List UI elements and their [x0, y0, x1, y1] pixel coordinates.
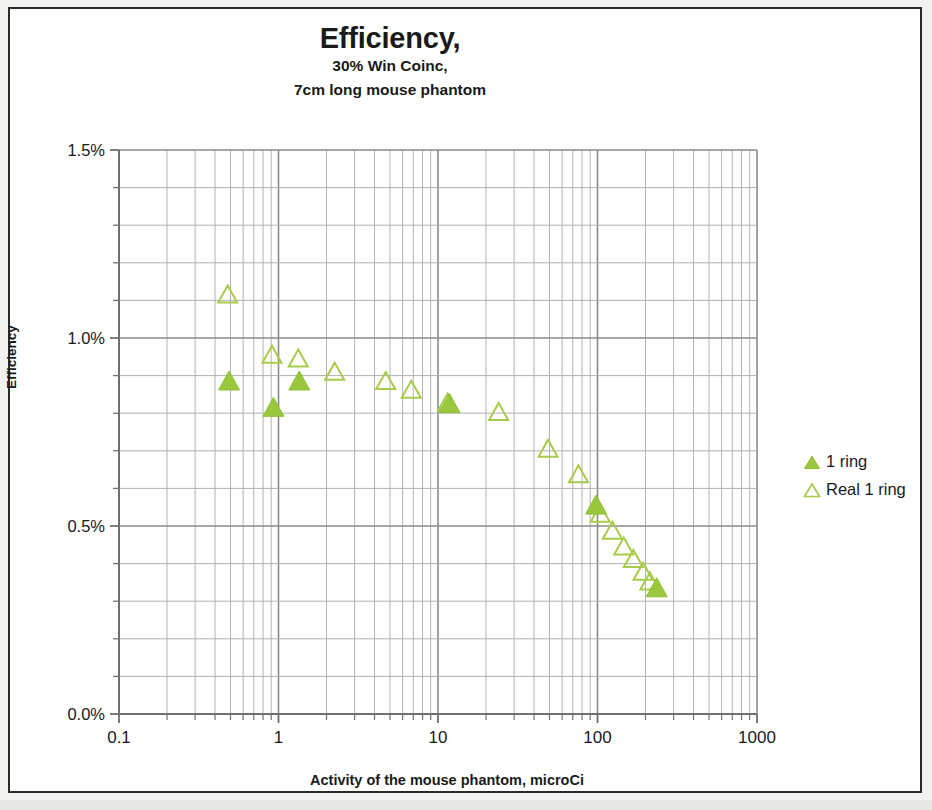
- data-point-filled: [289, 371, 310, 390]
- series-1-ring: [219, 371, 668, 597]
- data-point-open: [624, 550, 643, 567]
- chart-frame: Efficiency, 30% Win Coinc, 7cm long mous…: [8, 7, 922, 793]
- data-point-open: [603, 522, 622, 539]
- x-tick-label: 1: [274, 728, 283, 748]
- x-tick-label: 1000: [738, 728, 776, 748]
- x-tick-label: 10: [429, 728, 448, 748]
- chart-legend: 1 ring Real 1 ring: [803, 452, 906, 508]
- data-point-open: [569, 465, 588, 482]
- data-point-open: [402, 381, 421, 398]
- data-point-open: [325, 363, 344, 380]
- legend-label: Real 1 ring: [826, 480, 906, 499]
- data-point-open: [289, 350, 308, 367]
- data-point-filled: [219, 371, 240, 390]
- filled-triangle-icon: [803, 454, 821, 470]
- plot-svg: [10, 9, 924, 795]
- data-point-open: [539, 440, 558, 457]
- plot-area: 0.0%0.5%1.0%1.5%0.11101001000: [10, 9, 932, 810]
- legend-item-1-ring[interactable]: 1 ring: [803, 452, 906, 471]
- data-point-open: [489, 403, 508, 420]
- legend-label: 1 ring: [826, 452, 867, 471]
- y-tick-label: 0.5%: [10, 517, 105, 536]
- x-tick-label: 100: [583, 728, 611, 748]
- data-point-filled: [586, 495, 607, 514]
- y-tick-label: 1.5%: [10, 141, 105, 160]
- gridlines: [119, 150, 757, 714]
- y-tick-label: 0.0%: [10, 705, 105, 724]
- figure-background: Efficiency, 30% Win Coinc, 7cm long mous…: [0, 0, 932, 810]
- x-tick-label: 0.1: [107, 728, 131, 748]
- legend-item-real-1-ring[interactable]: Real 1 ring: [803, 480, 906, 499]
- data-point-open: [614, 538, 633, 555]
- bottom-strip: [0, 800, 932, 810]
- data-point-open: [376, 372, 395, 389]
- data-point-filled: [263, 397, 284, 416]
- open-triangle-icon: [803, 482, 821, 498]
- y-tick-label: 1.0%: [10, 329, 105, 348]
